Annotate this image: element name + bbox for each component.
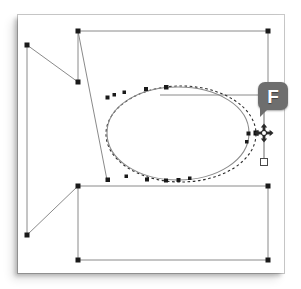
transform-handle-bottom[interactable] <box>261 159 268 166</box>
node-stem-lower-start[interactable] <box>76 184 81 189</box>
node-bottom-left-rail[interactable] <box>76 258 81 263</box>
path-node[interactable] <box>247 132 251 136</box>
vector-artwork-layer[interactable] <box>0 0 301 289</box>
straight-path-group <box>27 31 268 260</box>
path-node[interactable] <box>144 87 148 91</box>
node-stem-upper-end[interactable] <box>76 80 81 85</box>
path-node[interactable] <box>164 85 169 90</box>
corner-node-group <box>25 29 271 263</box>
path-node[interactable] <box>125 175 129 179</box>
diagonal-lower-line[interactable] <box>27 186 78 235</box>
path-node[interactable] <box>245 140 249 144</box>
node-right-mid-rail[interactable] <box>266 184 271 189</box>
edited-ellipse-path[interactable] <box>107 87 249 180</box>
diagonal-upper-line[interactable] <box>27 45 78 82</box>
diagonal-long-line[interactable] <box>78 31 107 180</box>
path-node[interactable] <box>106 178 111 183</box>
editor-canvas-root: F <box>0 0 301 289</box>
path-node[interactable] <box>164 179 168 183</box>
path-node[interactable] <box>145 178 149 182</box>
node-left-lower[interactable] <box>25 233 30 238</box>
node-bottom-right-rail[interactable] <box>266 258 271 263</box>
path-node[interactable] <box>123 91 127 95</box>
fireworks-tool-badge[interactable]: F <box>258 82 288 110</box>
node-left-upper[interactable] <box>25 43 30 48</box>
path-node[interactable] <box>113 93 117 97</box>
badge-letter: F <box>258 82 288 110</box>
path-node[interactable] <box>106 96 110 100</box>
path-node[interactable] <box>188 177 192 181</box>
node-top-left-rail[interactable] <box>76 29 81 34</box>
node-top-right-rail[interactable] <box>266 29 271 34</box>
path-node[interactable] <box>177 178 181 182</box>
move-cursor-icon <box>255 124 274 143</box>
